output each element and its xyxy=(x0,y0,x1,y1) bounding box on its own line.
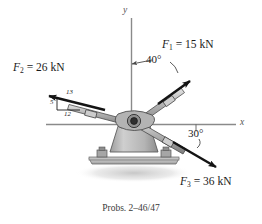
force-f3-equals: = xyxy=(194,175,201,187)
force-label-f3: F3 = 36 kN xyxy=(180,176,231,188)
force-f1-magnitude: 15 xyxy=(185,38,197,50)
force-f3-subscript: 3 xyxy=(187,180,191,189)
rod-f2-turnbuckle xyxy=(85,110,97,119)
angle-label-30: 30° xyxy=(188,128,203,139)
figure-caption: Probs. 2–46/47 xyxy=(0,203,262,213)
ground-shadow xyxy=(75,164,193,183)
force-f1-unit: kN xyxy=(199,38,213,50)
angle-leader-30 xyxy=(197,139,200,148)
y-axis-label: y xyxy=(123,6,127,16)
force-label-f2: F2 = 26 kN xyxy=(13,62,64,74)
slope-label-hypotenuse: 13 xyxy=(66,89,73,96)
force-f3-unit: kN xyxy=(217,175,231,187)
force-label-f1: F1 = 15 kN xyxy=(162,39,213,51)
x-axis-label: x xyxy=(240,118,244,128)
force-arrow-f3 xyxy=(173,142,216,167)
force-f2-unit: kN xyxy=(50,61,64,73)
force-f2-symbol: F2 xyxy=(13,61,24,73)
diagram-canvas xyxy=(0,0,262,224)
slope-label-horizontal: 12 xyxy=(64,111,71,118)
center-pin-inner xyxy=(131,118,138,125)
force-f3-magnitude: 36 xyxy=(203,175,215,187)
angle-label-40: 40° xyxy=(146,54,161,65)
force-f2-magnitude: 26 xyxy=(36,61,48,73)
force-f2-equals: = xyxy=(27,61,34,73)
force-f2-subscript: 2 xyxy=(20,66,24,75)
force-f1-symbol: F1 xyxy=(162,38,173,50)
force-f1-subscript: 1 xyxy=(169,43,173,52)
force-diagram-figure: y x F1 = 15 kN 40° F2 = 26 kN 13 5 12 30… xyxy=(0,0,262,224)
slope-label-vertical: 5 xyxy=(50,99,53,106)
force-f3-symbol: F3 xyxy=(180,175,191,187)
base-bolt-left xyxy=(97,147,107,157)
base-bolt-right xyxy=(161,147,171,157)
base-plate-top xyxy=(89,157,179,160)
force-f1-equals: = xyxy=(176,38,183,50)
rod-f3-turnbuckle xyxy=(162,137,174,147)
